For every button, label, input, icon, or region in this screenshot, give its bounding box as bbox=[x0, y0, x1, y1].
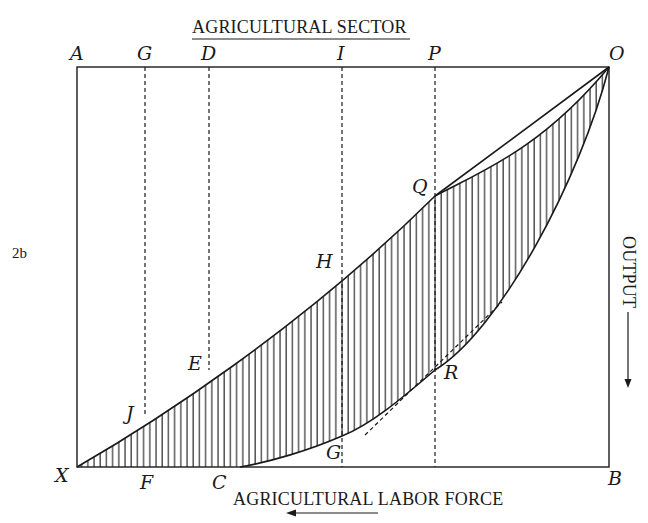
right-axis-label: OUTPUT bbox=[619, 236, 639, 308]
hatched-surplus-region bbox=[77, 60, 612, 470]
label-h: H bbox=[315, 250, 333, 272]
label-d: D bbox=[200, 42, 216, 64]
label-e: E bbox=[187, 352, 202, 374]
label-b: B bbox=[607, 467, 622, 489]
top-title: AGRICULTURAL SECTOR bbox=[192, 17, 407, 37]
label-g-top: G bbox=[137, 42, 152, 64]
label-g-bottom: G bbox=[326, 441, 341, 463]
down-arrow-icon bbox=[625, 379, 632, 388]
label-a: A bbox=[68, 42, 84, 64]
figure-number: 2b bbox=[12, 245, 27, 261]
label-p: P bbox=[427, 42, 442, 64]
left-arrow-icon bbox=[286, 510, 296, 517]
label-o: O bbox=[609, 42, 625, 64]
bottom-title: AGRICULTURAL LABOR FORCE bbox=[233, 489, 504, 509]
label-q: Q bbox=[412, 175, 428, 197]
label-j: J bbox=[122, 402, 135, 424]
label-r: R bbox=[443, 361, 458, 383]
label-x: X bbox=[53, 464, 70, 486]
label-i: I bbox=[336, 42, 345, 64]
label-c: C bbox=[212, 471, 227, 493]
diagram-canvas: 2b AGRICULTURAL SECTOR A G D I P O Q H E… bbox=[0, 0, 648, 523]
label-f: F bbox=[139, 471, 154, 493]
